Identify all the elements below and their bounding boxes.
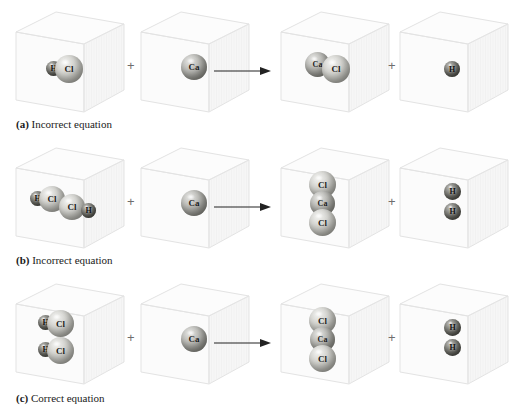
atom-symbol: H <box>449 323 455 332</box>
atom-symbol: Ca <box>189 62 200 72</box>
atom-symbol: H <box>449 65 455 74</box>
atom-h: H <box>81 203 96 218</box>
atom-symbol: Cl <box>332 64 341 74</box>
atom-h: H <box>444 183 461 200</box>
reactant-hcl-hcl-box: HClClH <box>14 146 126 248</box>
plus-operator-reactants: + <box>127 195 135 208</box>
caption-text: Correct equation <box>31 392 105 404</box>
atom-h: H <box>444 339 461 356</box>
atom-cl: Cl <box>47 337 74 364</box>
reactant-2hcl-molecule: HClHCl <box>14 282 126 384</box>
equation-row-c: HClHClCaClCaClHH++(c) Correct equation <box>0 272 510 408</box>
atom-cl: Cl <box>309 209 336 236</box>
atom-h: H <box>444 61 460 77</box>
plus-operator-reactants: + <box>127 59 135 72</box>
atom-cl: Cl <box>322 55 350 83</box>
atom-symbol: H <box>85 206 91 215</box>
reactant-2hcl-box: HClHCl <box>14 282 126 384</box>
atom-symbol: Cl <box>68 202 77 212</box>
atom-h: H <box>444 319 461 336</box>
atom-symbol: Cl <box>318 354 327 364</box>
plus-operator-products: + <box>388 331 396 344</box>
reactant-ca-box: Ca <box>139 10 251 112</box>
plus-operator-products: + <box>388 59 396 72</box>
atom-ca: Ca <box>181 190 207 216</box>
atom-symbol: Cl <box>318 316 327 326</box>
product-h2-box: HH <box>398 146 510 248</box>
atom-symbol: Ca <box>318 199 328 208</box>
atom-symbol: H <box>449 343 455 352</box>
reaction-arrow <box>214 334 272 344</box>
atom-symbol: Cl <box>56 319 65 329</box>
atom-symbol: Cl <box>56 346 65 356</box>
caption-tag: (c) <box>16 392 28 404</box>
reactant-ca-box: Ca <box>139 282 251 384</box>
caption-tag: (a) <box>16 118 29 130</box>
product-cacl2-box: ClCaCl <box>279 282 391 384</box>
reaction-arrow-icon <box>214 338 272 348</box>
product-cacl2-molecule: ClCaCl <box>279 282 391 384</box>
reactant-hcl-hcl-molecule: HClClH <box>14 146 126 248</box>
caption-c: (c) Correct equation <box>16 392 105 404</box>
reactant-ca-molecule: Ca <box>139 146 251 248</box>
product-h2-molecule: HH <box>398 146 510 248</box>
product-cacl2-molecule: ClCaCl <box>279 146 391 248</box>
equation-row-b: HClClHCaClCaClHH++(b) Incorrect equation <box>0 136 510 272</box>
atom-symbol: Ca <box>189 334 200 344</box>
atom-cl: Cl <box>309 345 336 372</box>
atom-symbol: Cl <box>65 64 74 74</box>
atom-symbol: Ca <box>313 60 323 69</box>
product-h2-box: HH <box>398 282 510 384</box>
caption-a: (a) Incorrect equation <box>16 118 112 130</box>
atom-cl: Cl <box>47 310 74 337</box>
atom-symbol: Cl <box>48 194 57 204</box>
plus-operator-reactants: + <box>127 331 135 344</box>
atom-ca: Ca <box>181 326 207 352</box>
atom-symbol: H <box>449 187 455 196</box>
reactant-ca-molecule: Ca <box>139 282 251 384</box>
reactant-ca-molecule: Ca <box>139 10 251 112</box>
product-cacl2-box: ClCaCl <box>279 146 391 248</box>
reaction-arrow <box>214 62 272 72</box>
product-h-molecule: H <box>398 10 510 112</box>
caption-text: Incorrect equation <box>32 118 112 130</box>
caption-tag: (b) <box>16 254 29 266</box>
caption-text: Incorrect equation <box>32 254 112 266</box>
product-cacl-box: CaCl <box>279 10 391 112</box>
atom-symbol: Cl <box>318 218 327 228</box>
reaction-arrow-icon <box>214 202 272 212</box>
atom-symbol: Ca <box>318 335 328 344</box>
product-cacl-molecule: CaCl <box>279 10 391 112</box>
reactant-hcl-box: HCl <box>14 10 126 112</box>
caption-b: (b) Incorrect equation <box>16 254 113 266</box>
atom-symbol: Ca <box>189 198 200 208</box>
reactant-hcl-molecule: HCl <box>14 10 126 112</box>
atom-cl: Cl <box>55 55 83 83</box>
equation-row-a: HClCaCaClH++(a) Incorrect equation <box>0 0 510 136</box>
atom-ca: Ca <box>181 54 207 80</box>
product-h-box: H <box>398 10 510 112</box>
plus-operator-products: + <box>388 195 396 208</box>
atom-symbol: H <box>449 207 455 216</box>
reaction-arrow-icon <box>214 66 272 76</box>
atom-symbol: Cl <box>318 180 327 190</box>
reactant-ca-box: Ca <box>139 146 251 248</box>
product-h2-molecule: HH <box>398 282 510 384</box>
atom-h: H <box>444 203 461 220</box>
reaction-arrow <box>214 198 272 208</box>
